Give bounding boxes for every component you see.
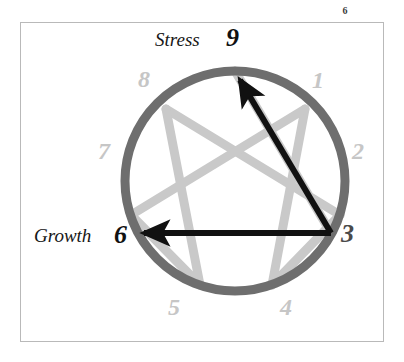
point-label-1: 1 <box>312 68 324 92</box>
point-label-7: 7 <box>98 139 110 163</box>
point-label-8: 8 <box>138 67 150 91</box>
enneagram-graphic <box>0 0 404 362</box>
enneagram-circle <box>125 71 345 291</box>
point-label-6: 6 <box>114 222 127 248</box>
point-label-9: 9 <box>226 25 239 51</box>
hexad-line-7-1 <box>131 109 305 215</box>
diagram-canvas: 6 Stress 9 Growth 6 3 <box>0 0 404 362</box>
growth-label: Growth <box>34 226 91 245</box>
stress-label: Stress <box>155 30 200 49</box>
point-label-4: 4 <box>280 295 292 319</box>
point-label-5: 5 <box>168 295 180 319</box>
point-label-2: 2 <box>352 139 364 163</box>
point-label-3: 3 <box>341 221 354 247</box>
